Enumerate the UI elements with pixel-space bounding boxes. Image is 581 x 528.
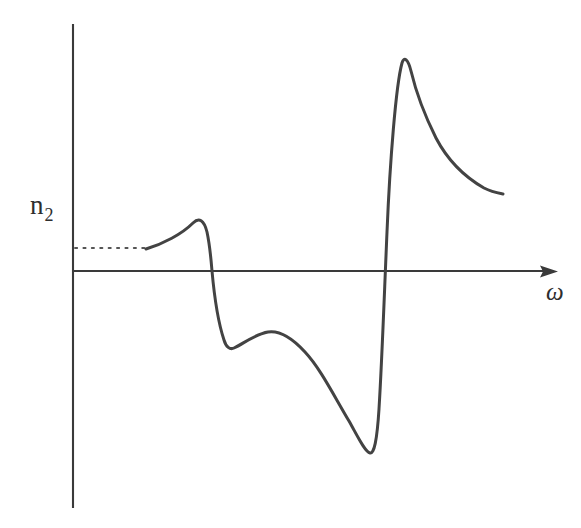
y-axis-label-subscript: 2 [44,205,54,225]
x-axis-label: ω [546,279,564,304]
dispersion-curve-path [146,59,503,453]
figure-canvas: n2 ω [0,0,581,528]
y-axis-label: n2 [30,192,54,224]
dispersion-plot [0,0,581,528]
y-axis-label-symbol: n [30,190,44,220]
